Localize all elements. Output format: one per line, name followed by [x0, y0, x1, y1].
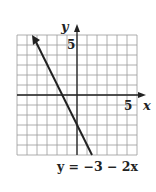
x-tick-label: 5 — [124, 99, 132, 113]
y-axis-label: y — [60, 19, 70, 34]
x-axis-label: x — [142, 98, 151, 113]
y-axis-arrow-icon — [74, 24, 80, 32]
y-tick-label: 5 — [67, 38, 75, 52]
graph: y 5 x 5 y = −3 − 2x — [0, 0, 156, 192]
equation-label: y = −3 − 2x — [56, 159, 138, 174]
